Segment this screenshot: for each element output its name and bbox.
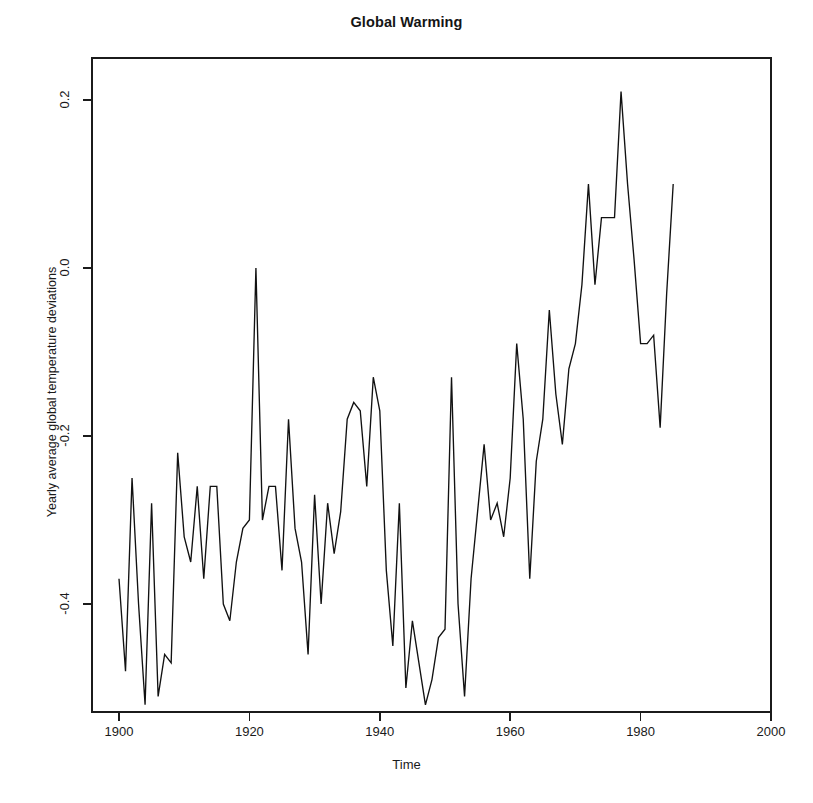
x-tick-label: 1940 — [350, 724, 410, 739]
x-tick-label: 1960 — [480, 724, 540, 739]
axes — [83, 58, 771, 721]
y-tick-marks — [83, 100, 92, 604]
x-tick-label: 1980 — [611, 724, 671, 739]
x-tick-marks — [119, 712, 771, 721]
x-tick-label: 1920 — [219, 724, 279, 739]
plot-box — [92, 58, 771, 712]
chart-figure: Global Warming 190019201940196019802000 … — [0, 0, 813, 803]
y-axis-label: Yearly average global temperature deviat… — [45, 112, 59, 672]
x-axis-label: Time — [0, 757, 813, 772]
series-line-0 — [119, 92, 673, 705]
x-tick-label: 1900 — [89, 724, 149, 739]
data-series-group — [119, 92, 673, 705]
plot-area — [0, 0, 813, 803]
x-tick-label: 2000 — [741, 724, 801, 739]
